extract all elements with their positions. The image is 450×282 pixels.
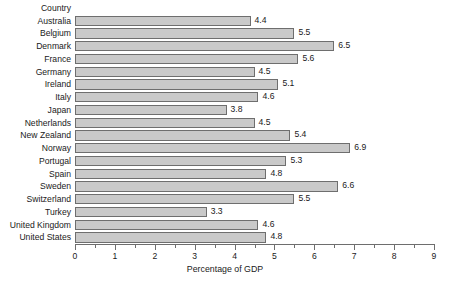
table-row: New Zealand5.4 [0,129,450,142]
bar [75,194,294,204]
x-tick-label: 4 [232,251,237,261]
bar [75,28,294,38]
category-label: Turkey [0,206,71,219]
bar-fill [75,41,334,51]
x-tick-minor [175,244,176,248]
bar-value-label: 5.3 [286,155,302,165]
table-row: Norway6.9 [0,142,450,155]
category-label: Switzerland [0,193,71,206]
bar-fill [75,143,350,153]
bar [75,118,255,128]
x-tick-minor [374,244,375,248]
category-label: Japan [0,104,71,117]
table-row: Belgium5.5 [0,27,450,40]
bar-fill [75,28,294,38]
category-label: New Zealand [0,129,71,142]
x-tick-major [354,244,355,250]
table-row: Portugal5.3 [0,155,450,168]
bar [75,67,255,77]
category-label: Germany [0,66,71,79]
category-label: France [0,53,71,66]
bar-fill [75,181,338,191]
axis-label-country: Country [0,2,71,15]
x-tick-label: 7 [352,251,357,261]
x-tick-minor [95,244,96,248]
x-tick-major [115,244,116,250]
bar-fill [75,220,258,230]
bar-value-label: 6.5 [334,40,350,50]
bar [75,16,251,26]
bar [75,220,258,230]
bar [75,41,334,51]
x-tick-major [195,244,196,250]
bar-value-label: 6.9 [350,142,366,152]
bar [75,181,338,191]
bar-value-label: 4.6 [258,91,274,101]
category-label: United States [0,231,71,244]
bar-fill [75,92,258,102]
bar-fill [75,79,278,89]
bar-fill [75,207,207,217]
category-label: Netherlands [0,117,71,130]
x-tick-major [314,244,315,250]
bar [75,156,286,166]
x-tick-major [394,244,395,250]
x-tick-minor [255,244,256,248]
bar [75,92,258,102]
x-tick-minor [294,244,295,248]
table-row: Ireland5.1 [0,78,450,91]
bar [75,105,227,115]
x-tick-label: 6 [312,251,317,261]
bar [75,207,207,217]
bar [75,169,266,179]
bar [75,130,290,140]
bar-fill [75,169,266,179]
x-tick-minor [215,244,216,248]
bar-value-label: 5.5 [294,27,310,37]
category-label: Denmark [0,40,71,53]
bar-value-label: 3.8 [227,104,243,114]
x-tick-major [155,244,156,250]
table-row: Italy4.6 [0,91,450,104]
table-row: Switzerland5.5 [0,193,450,206]
x-tick-label: 1 [112,251,117,261]
bar-value-label: 4.6 [258,219,274,229]
x-tick-minor [135,244,136,248]
bar-value-label: 5.1 [278,78,294,88]
bar-fill [75,194,294,204]
x-tick-label: 5 [272,251,277,261]
bar-fill [75,156,286,166]
x-tick-minor [334,244,335,248]
category-label: Portugal [0,155,71,168]
table-row: Turkey3.3 [0,206,450,219]
bar-value-label: 4.5 [255,66,271,76]
bar-fill [75,54,298,64]
bar-fill [75,16,251,26]
bar-fill [75,232,266,242]
bar-value-label: 4.8 [266,231,282,241]
table-row: Netherlands4.5 [0,117,450,130]
bar-value-label: 5.5 [294,193,310,203]
bar-value-label: 4.5 [255,117,271,127]
table-row: Germany4.5 [0,66,450,79]
table-row: Sweden6.6 [0,180,450,193]
x-tick-label: 0 [73,251,78,261]
x-tick-label: 9 [432,251,437,261]
x-tick-label: 2 [152,251,157,261]
bar-fill [75,105,227,115]
category-label: Italy [0,91,71,104]
bar [75,54,298,64]
table-row: Japan3.8 [0,104,450,117]
category-label: Spain [0,168,71,181]
x-tick-minor [414,244,415,248]
bar [75,143,350,153]
table-row: France5.6 [0,53,450,66]
table-row: United Kingdom4.6 [0,219,450,232]
category-label: Australia [0,15,71,28]
x-tick-major [434,244,435,250]
bar-value-label: 5.4 [290,129,306,139]
bar [75,232,266,242]
category-label: Ireland [0,78,71,91]
bar-value-label: 3.3 [207,206,223,216]
bar [75,79,278,89]
